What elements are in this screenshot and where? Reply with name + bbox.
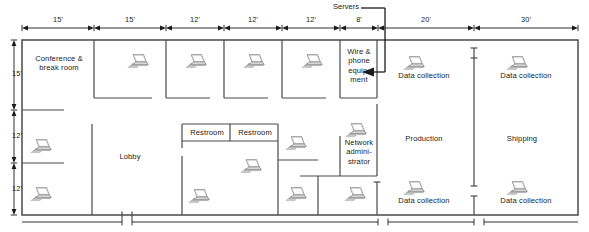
top-dim-1: 15' — [22, 16, 94, 24]
bottom-dimension-ticks — [22, 219, 578, 226]
network-administrator-room-label: Network admini- strator — [341, 138, 377, 166]
lobby-label: Lobby — [110, 152, 150, 161]
restroom-right-label: Restroom — [232, 128, 278, 137]
top-dim-4: 12' — [224, 16, 282, 24]
wire-phone-equipment-room-label: Wire & phone equip- ment — [341, 47, 377, 85]
laptop-left-lower-icon — [30, 186, 52, 202]
conference-break-room-label: Conference & break room — [28, 54, 90, 73]
laptop-data-collection-top-right-icon — [506, 55, 528, 71]
restroom-left-label: Restroom — [184, 128, 230, 137]
servers-callout-label: Servers — [333, 2, 359, 11]
laptop-data-collection-top-left-icon — [403, 55, 425, 71]
shipping-area-label: Shipping — [497, 134, 547, 143]
laptop-lower-right-inner-icon — [285, 186, 307, 202]
office-floor-plan-diagram: 15' 15' 12' 12' 12' 8' 20' 30' 15' 12' 1… — [0, 0, 589, 232]
data-collection-bottom-right-label: Data collection — [488, 196, 564, 205]
laptop-left-upper-icon — [30, 138, 52, 154]
laptop-office-4-icon — [301, 53, 323, 69]
data-collection-top-left-label: Data collection — [386, 71, 462, 80]
laptop-office-2-icon — [185, 53, 207, 69]
top-dimension-line — [22, 25, 578, 31]
laptop-data-collection-bottom-left-icon — [403, 180, 425, 196]
production-area-label: Production — [396, 134, 452, 143]
laptop-lower-admin-icon — [344, 186, 366, 202]
laptop-office-3-icon — [243, 53, 265, 69]
top-dim-3: 12' — [166, 16, 224, 24]
laptop-network-admin-icon — [345, 122, 367, 138]
laptop-data-collection-bottom-right-icon — [506, 180, 528, 196]
data-collection-top-right-label: Data collection — [488, 71, 564, 80]
laptop-lower-center-icon — [188, 188, 210, 204]
laptop-right-of-restroom-icon — [285, 135, 307, 151]
left-dim-3: 12' — [0, 185, 22, 193]
left-dim-1: 15' — [0, 70, 22, 78]
laptop-hall-center-icon — [240, 158, 262, 174]
top-dim-2: 15' — [94, 16, 166, 24]
top-dim-8: 30' — [474, 16, 578, 24]
top-dim-5: 12' — [282, 16, 340, 24]
left-dim-2: 12' — [0, 132, 22, 140]
laptop-office-1-icon — [127, 53, 149, 69]
top-dim-6: 8' — [340, 16, 378, 24]
data-collection-bottom-left-label: Data collection — [386, 196, 462, 205]
top-dim-7: 20' — [378, 16, 474, 24]
